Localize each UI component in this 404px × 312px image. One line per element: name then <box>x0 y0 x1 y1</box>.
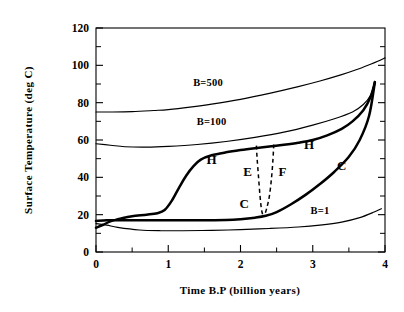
y-axis-right-ticks <box>378 47 385 252</box>
x-tick-label: 3 <box>310 258 316 270</box>
label-f: F <box>278 164 286 179</box>
series-path-hot-branch <box>96 82 375 228</box>
label-e: E <box>243 164 252 179</box>
label-b500: B=500 <box>193 77 223 88</box>
series-path-b100 <box>96 82 375 147</box>
y-axis-title: Surface Temperature (deg C) <box>22 66 35 214</box>
y-tick-label: 40 <box>78 171 90 183</box>
label-b100: B=100 <box>197 116 227 127</box>
series-path-transition-e <box>256 146 263 216</box>
label-b1: B=1 <box>311 205 330 216</box>
label-c-right: C <box>337 158 346 173</box>
x-tick-label: 0 <box>93 258 99 270</box>
y-tick-label: 100 <box>72 59 90 71</box>
label-h-right: H <box>304 137 314 152</box>
y-tick-labels: 0 20 40 60 80 100 120 <box>72 22 90 258</box>
x-tick-labels: 0 1 2 3 4 <box>93 258 388 270</box>
chart-svg: 0 20 40 60 80 100 120 0 1 2 3 4 Time B.P… <box>0 0 404 312</box>
y-tick-label: 80 <box>78 97 90 109</box>
y-tick-label: 120 <box>72 22 90 34</box>
y-tick-label: 20 <box>78 209 90 221</box>
y-tick-label: 0 <box>83 246 89 258</box>
x-tick-label: 4 <box>382 258 388 270</box>
x-tick-label: 1 <box>165 258 171 270</box>
x-tick-label: 2 <box>238 258 244 270</box>
y-axis-ticks <box>96 28 103 252</box>
x-axis-title: Time B.P (billion years) <box>180 284 301 297</box>
x-axis-ticks <box>96 245 385 252</box>
chart-figure: 0 20 40 60 80 100 120 0 1 2 3 4 Time B.P… <box>0 0 404 312</box>
series-path-b500 <box>96 58 385 112</box>
label-c-left: C <box>239 196 248 211</box>
label-h-left: H <box>207 152 217 167</box>
y-tick-label: 60 <box>78 134 90 146</box>
series-path-transition-f <box>264 144 273 215</box>
